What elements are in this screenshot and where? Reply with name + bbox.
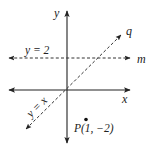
equation-q-label: y = x (23, 94, 50, 121)
point-p (84, 118, 88, 122)
y-axis-label: y (53, 6, 60, 20)
point-p-label: P(1, −2) (73, 122, 114, 135)
coordinate-diagram: y x q m y = 2 y = x P(1, −2) (0, 0, 153, 145)
equation-m-label: y = 2 (24, 44, 50, 57)
line-m-label: m (137, 52, 146, 66)
line-q-label: q (126, 24, 132, 38)
x-axis-label: x (121, 92, 128, 106)
